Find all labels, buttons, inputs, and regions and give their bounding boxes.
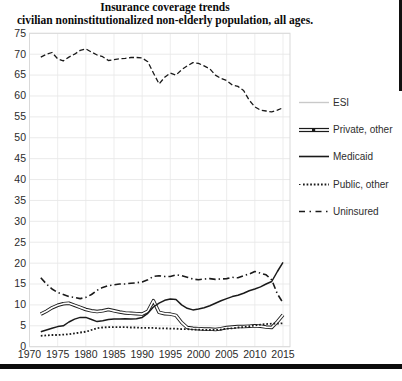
chart-subtitle: civilian noninstitutionalized non-elderl…: [0, 14, 330, 27]
esi-line-swatch-icon: [299, 99, 329, 106]
dotted-line-swatch-icon: [299, 181, 329, 188]
legend-entry-medicaid: Medicaid: [299, 143, 392, 170]
legend-entry-private-other: Private, other: [299, 116, 392, 143]
svg-text:45: 45: [14, 152, 26, 164]
svg-text:10: 10: [14, 298, 26, 310]
solid-line-swatch-icon: [299, 153, 329, 160]
chart-title: Insurance coverage trends: [0, 1, 330, 14]
svg-text:65: 65: [14, 68, 26, 80]
svg-text:1985: 1985: [102, 348, 126, 360]
legend: ESI Private, other Medicaid Public, othe…: [299, 89, 392, 225]
svg-text:70: 70: [14, 48, 26, 60]
svg-text:60: 60: [14, 89, 26, 101]
legend-label: Uninsured: [333, 206, 379, 217]
svg-text:20: 20: [14, 257, 26, 269]
svg-text:1970: 1970: [18, 348, 42, 360]
svg-text:30: 30: [14, 215, 26, 227]
svg-text:25: 25: [14, 236, 26, 248]
svg-text:1995: 1995: [159, 348, 183, 360]
svg-text:35: 35: [14, 194, 26, 206]
svg-text:55: 55: [14, 110, 26, 122]
svg-text:1990: 1990: [130, 348, 154, 360]
bottom-border-line: [0, 364, 402, 369]
legend-label: Private, other: [333, 124, 392, 135]
dash-dot-line-swatch-icon: [299, 208, 329, 215]
legend-label: Public, other: [333, 179, 389, 190]
svg-text:1980: 1980: [74, 348, 98, 360]
svg-text:2005: 2005: [215, 348, 239, 360]
svg-text:2015: 2015: [271, 348, 295, 360]
legend-entry-uninsured: Uninsured: [299, 198, 392, 225]
svg-text:75: 75: [14, 27, 26, 39]
svg-text:2010: 2010: [243, 348, 267, 360]
legend-label: ESI: [333, 97, 349, 108]
svg-text:15: 15: [14, 277, 26, 289]
svg-text:50: 50: [14, 131, 26, 143]
chart-panel: 0510152025303540455055606570751970197519…: [0, 0, 402, 381]
double-line-swatch-icon: [299, 126, 329, 134]
legend-label: Medicaid: [333, 151, 373, 162]
svg-text:1975: 1975: [46, 348, 70, 360]
legend-entry-public-other: Public, other: [299, 171, 392, 198]
legend-entry-esi: ESI: [299, 89, 392, 116]
chart-header: Insurance coverage trends civilian nonin…: [0, 1, 330, 27]
svg-text:2000: 2000: [187, 348, 211, 360]
svg-text:5: 5: [20, 319, 26, 331]
svg-text:40: 40: [14, 173, 26, 185]
